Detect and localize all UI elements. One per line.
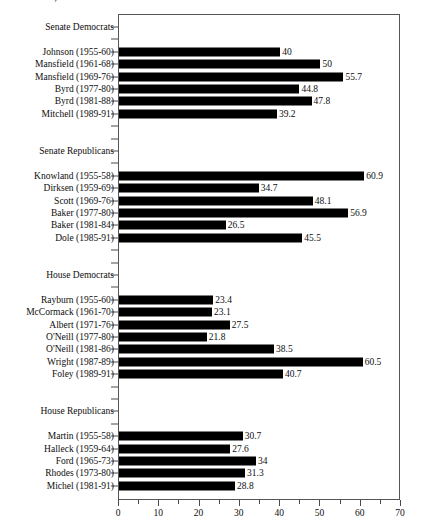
spacer-row: [0, 256, 423, 268]
x-tick-major: [199, 500, 200, 506]
category-label: Rhodes (1973-80): [45, 468, 114, 479]
bar: [119, 184, 259, 193]
bar: [119, 469, 245, 478]
bar-value-label: 34: [258, 455, 268, 466]
spacer-row: [0, 393, 423, 405]
bar-row: Foley (1989-91)40.7: [0, 368, 423, 380]
bar: [119, 60, 320, 69]
axis-tick: [111, 250, 118, 251]
bar-row: Dole (1985-91)45.5: [0, 232, 423, 244]
bar-row: Mansfield (1969-76)55.7: [0, 70, 423, 82]
x-tick-minor: [138, 500, 139, 504]
axis-tick: [111, 423, 118, 424]
axis-tick: [111, 126, 118, 127]
bar-value-label: 34.7: [261, 183, 278, 194]
x-tick-label: 40: [274, 508, 284, 519]
x-tick-major: [118, 500, 119, 506]
category-label: Johnson (1955-60): [42, 46, 114, 57]
bar: [119, 84, 299, 93]
category-label: McCormack (1961-70): [26, 307, 114, 318]
bar-value-label: 44.8: [301, 83, 318, 94]
x-tick-major: [319, 500, 320, 506]
bar: [119, 109, 277, 118]
bar-row: Baker (1981-84)26.5: [0, 219, 423, 231]
group-header-row: House Democrats: [0, 269, 423, 281]
bar-value-label: 26.5: [228, 220, 245, 231]
x-tick-major: [239, 500, 240, 506]
spacer-row: [0, 157, 423, 169]
bar-row: Scott (1969-76)48.1: [0, 194, 423, 206]
x-tick-label: 10: [154, 508, 164, 519]
bar-value-label: 39.2: [279, 108, 296, 119]
bar-value-label: 30.7: [245, 431, 262, 442]
bar: [119, 456, 256, 465]
category-label: O'Neill (1981-86): [46, 344, 114, 355]
bar: [119, 295, 213, 304]
bar: [119, 320, 230, 329]
x-tick-label: 0: [116, 508, 121, 519]
spacer-row: [0, 33, 423, 45]
bar: [119, 208, 348, 217]
x-tick-label: 60: [355, 508, 365, 519]
x-tick-minor: [219, 500, 220, 504]
category-label: Mansfield (1969-76): [35, 71, 114, 82]
category-label: Foley (1989-91): [52, 369, 114, 380]
x-tick-minor: [380, 500, 381, 504]
axis-tick: [111, 138, 118, 139]
category-label: Baker (1977-80): [51, 207, 114, 218]
category-label: Byrd (1977-80): [55, 83, 114, 94]
x-tick-major: [279, 500, 280, 506]
group-header-row: Senate Republicans: [0, 145, 423, 157]
x-tick-label: 70: [395, 508, 405, 519]
bar: [119, 444, 230, 453]
axis-tick: [111, 163, 118, 164]
x-tick-minor: [178, 500, 179, 504]
bar-row: Byrd (1977-80)44.8: [0, 83, 423, 95]
category-label: Wright (1987-89): [47, 356, 114, 367]
axis-tick: [111, 39, 118, 40]
x-axis: 010203040506070: [118, 500, 400, 527]
bar-rows: Senate DemocratsJohnson (1955-60)40Mansf…: [0, 14, 423, 500]
group-header-label: Senate Republicans: [39, 145, 114, 156]
bar: [119, 370, 283, 379]
x-tick-major: [400, 500, 401, 506]
bar-value-label: 48.1: [315, 195, 332, 206]
category-label: Mitchell (1989-91): [41, 108, 114, 119]
axis-tick: [111, 287, 118, 288]
spacer-row: [0, 244, 423, 256]
x-tick-label: 30: [234, 508, 244, 519]
bar-row: Dirksen (1959-69)34.7: [0, 182, 423, 194]
bar-value-label: 60.9: [366, 170, 383, 181]
category-label: Baker (1981-84): [51, 220, 114, 231]
bar: [119, 233, 302, 242]
x-tick-minor: [299, 500, 300, 504]
bar: [119, 432, 243, 441]
bar: [119, 357, 363, 366]
category-label: Rayburn (1955-60): [41, 294, 114, 305]
bar: [119, 481, 235, 490]
bar-value-label: 23.1: [214, 307, 231, 318]
category-label: Martin (1955-58): [48, 431, 114, 442]
category-label: Byrd (1981-88): [55, 96, 114, 107]
spacer-row: [0, 380, 423, 392]
bar-value-label: 28.8: [237, 480, 254, 491]
bar-row: Wright (1987-89)60.5: [0, 356, 423, 368]
category-label: Dirksen (1959-69): [44, 183, 114, 194]
bar-row: Knowland (1955-58)60.9: [0, 170, 423, 182]
bar: [119, 308, 212, 317]
spacer-row: [0, 281, 423, 293]
bar: [119, 221, 226, 230]
bar-row: McCormack (1961-70)23.1: [0, 306, 423, 318]
bar-row: Michel (1981-91)28.8: [0, 480, 423, 492]
bar: [119, 196, 313, 205]
bar: [119, 171, 364, 180]
x-tick-minor: [259, 500, 260, 504]
bar-row: Rhodes (1973-80)31.3: [0, 467, 423, 479]
bar-value-label: 31.3: [247, 468, 264, 479]
bar-row: Baker (1977-80)56.9: [0, 207, 423, 219]
axis-tick: [111, 386, 118, 387]
category-label: Michel (1981-91): [47, 480, 114, 491]
bar-row: Martin (1955-58)30.7: [0, 430, 423, 442]
bar-value-label: 40.7: [285, 369, 302, 380]
bar-row: Mansfield (1961-68)50: [0, 58, 423, 70]
